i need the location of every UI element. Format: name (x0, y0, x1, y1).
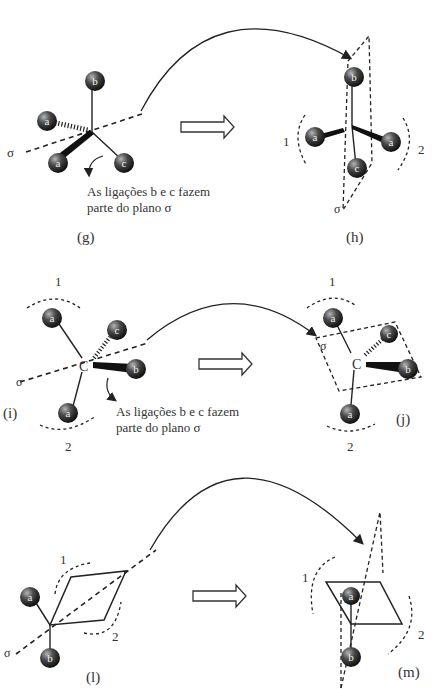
atom-a-label: a (389, 136, 394, 148)
sigma-label: σ (334, 202, 341, 216)
atom-a-label: a (349, 590, 354, 602)
region-2-label: 2 (65, 439, 72, 454)
note-line-1: As ligações b e c fazem (116, 404, 239, 419)
sigma-label: σ (320, 339, 327, 353)
panel-label-l: (l) (86, 669, 100, 686)
atom-c-label: c (122, 157, 127, 169)
region-1-arc (27, 299, 80, 308)
atom-a-label: a (28, 591, 33, 603)
panel-label-m: (m) (398, 664, 420, 681)
hashed-bond-a (52, 122, 88, 130)
note-line-1: As ligações b e c fazem (87, 184, 210, 199)
hollow-arrow-icon (199, 353, 252, 375)
region-1-label: 1 (55, 274, 62, 289)
sigma-label: σ (7, 145, 14, 160)
atom-c-label: c (387, 328, 392, 340)
region-2-label: 2 (112, 629, 119, 644)
panel-g: b a a c σ As ligações b e c fazem parte … (7, 71, 210, 246)
panel-j: C a c b a 1 2 σ (j) (307, 274, 421, 454)
region-1-label: 1 (329, 274, 336, 289)
region-1-label: 1 (302, 570, 309, 585)
region-2-label: 2 (418, 627, 425, 642)
sigma-label: σ (16, 375, 23, 389)
atom-a-label: a (66, 407, 71, 419)
panel-l: a b 1 2 σ (l) (4, 550, 156, 686)
atom-a-label: a (50, 312, 55, 324)
panel-label-i: (i) (3, 405, 17, 422)
bond-a (36, 603, 50, 625)
atom-b-label: b (351, 71, 357, 83)
atom-a-label: a (348, 408, 353, 420)
panel-label-j: (j) (396, 411, 410, 428)
hashed-bond-c (365, 339, 383, 355)
atom-b-label: b (47, 652, 53, 664)
plane-rhombus (326, 582, 402, 624)
rotation-arrow (107, 378, 115, 400)
region-1-label: 1 (60, 552, 67, 567)
note-line-2: parte do plano σ (87, 200, 172, 215)
curved-transform-arrow (141, 29, 350, 111)
hollow-arrow-icon (181, 116, 234, 138)
symmetry-diagram: b a a c σ As ligações b e c fazem parte … (0, 0, 434, 689)
curved-transform-arrow (150, 478, 362, 550)
region-2-arc (327, 424, 375, 431)
sigma-plane (316, 322, 421, 391)
sigma-plane (343, 36, 372, 210)
sigma-label: σ (4, 646, 11, 660)
panel-h: b a a c 1 2 σ (h) (283, 36, 425, 246)
panel-m: a b 1 2 (m) (302, 512, 425, 688)
atom-b-label: b (348, 651, 354, 663)
atom-b-label: b (92, 75, 98, 87)
atom-a-label: a (56, 157, 61, 169)
bond-a-lower (72, 372, 82, 410)
region-1-arc (307, 298, 355, 308)
atom-c-label: c (355, 162, 360, 174)
atom-a-label: a (313, 131, 318, 143)
atom-a-label: a (331, 312, 336, 324)
region-2-label: 2 (347, 439, 354, 454)
atom-a-label: a (45, 115, 50, 127)
atom-c-label: c (115, 324, 120, 336)
carbon-center-label: C (352, 357, 361, 372)
curved-transform-arrow (147, 304, 315, 340)
atom-b-label: b (405, 363, 411, 375)
region-1-arc (55, 563, 90, 594)
bond-a-lower (351, 370, 354, 405)
carbon-center-label: C (79, 359, 88, 374)
note-line-2: parte do plano σ (116, 420, 201, 435)
region-2-label: 2 (418, 142, 425, 157)
panel-label-g: (g) (77, 229, 95, 246)
bond-c (92, 132, 121, 159)
atom-b-label: b (133, 363, 139, 375)
hollow-arrow-icon (193, 585, 246, 607)
region-1-label: 1 (283, 134, 290, 149)
plane-rhombus (50, 571, 126, 625)
rotation-arrow (89, 156, 103, 175)
panel-label-h: (h) (346, 229, 364, 246)
region-1-arc (311, 557, 335, 614)
